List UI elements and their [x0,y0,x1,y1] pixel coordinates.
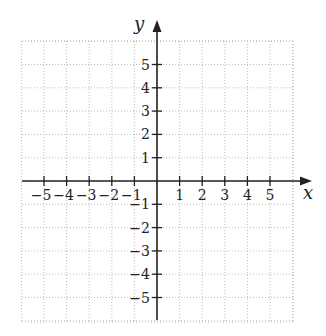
x-tick-label: −5 [31,187,52,203]
y-axis-arrow-icon [153,20,162,32]
x-axis-label: x [303,182,313,203]
y-tick-label: −5 [129,290,150,306]
y-axis-label: y [133,13,145,34]
y-tick-label: 2 [141,126,150,142]
x-tick-label: 5 [266,187,275,203]
x-tick-label: −2 [98,187,119,203]
y-tick-label: −2 [129,220,150,236]
y-tick-label: 5 [141,57,150,73]
x-tick-label: −4 [53,187,74,203]
y-tick-label: 1 [141,150,150,166]
x-tick-label: 4 [243,187,252,203]
y-tick-label: −4 [129,266,150,282]
y-tick-label: 4 [141,80,150,96]
coordinate-plane: −5−4−3−2−11234554321−1−2−3−4−5 x y [0,0,326,336]
x-tick-label: 2 [198,187,207,203]
y-tick-label: −3 [129,243,150,259]
y-tick-label: −1 [129,196,150,212]
x-tick-label: −3 [76,187,97,203]
x-tick-label: 1 [175,187,184,203]
y-tick-label: 3 [141,103,150,119]
x-tick-label: 3 [220,187,229,203]
